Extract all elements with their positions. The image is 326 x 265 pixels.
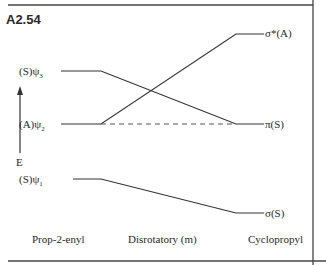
svg-text:(A)ψ2: (A)ψ2 [19, 118, 45, 133]
correlation-psi2-to-sigma-star [61, 34, 264, 124]
sigma-label: σ(S) [265, 207, 285, 220]
psi3-subscript: 3 [39, 72, 43, 80]
problem-id: A2.54 [6, 12, 41, 27]
correlation-psi1-to-sigma [73, 179, 264, 213]
left-level-psi1: (S)ψ1 [19, 173, 43, 188]
correlation-psi3-to-pi [61, 71, 264, 124]
svg-text:(S)ψ3: (S)ψ3 [19, 65, 43, 80]
psi1-subscript: 1 [39, 180, 43, 188]
column-label-right: Cyclopropyl [248, 233, 303, 245]
left-level-psi3: (S)ψ3 [19, 65, 43, 80]
energy-axis-label: E [16, 156, 23, 168]
pi-label: π(S) [265, 118, 284, 131]
psi1-label: (S)ψ [19, 173, 39, 186]
svg-text:(S)ψ1: (S)ψ1 [19, 173, 43, 188]
correlation-diagram: A2.54 E (S)ψ3 (A)ψ2 (S)ψ1 σ*(A) π(S) σ(S… [0, 0, 326, 265]
psi2-subscript: 2 [41, 125, 45, 133]
column-label-middle: Disrotatory (m) [128, 233, 197, 246]
column-label-left: Prop-2-enyl [32, 233, 85, 245]
psi3-label: (S)ψ [19, 65, 39, 78]
left-level-psi2: (A)ψ2 [19, 118, 45, 133]
sigma-star-label: σ*(A) [265, 27, 292, 40]
psi2-label: (A)ψ [19, 118, 41, 131]
